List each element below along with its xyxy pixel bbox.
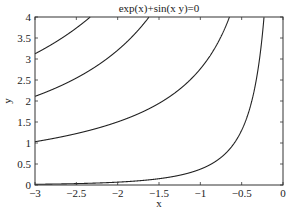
curve-branch-4 [35,17,90,54]
y-tick-label: 1 [26,137,32,149]
curve-branch-1 [35,17,264,184]
x-tick-label: −1 [194,187,206,199]
y-tick-label: 1.5 [17,116,31,128]
curve-branch-2 [35,17,229,142]
y-tick-label: 3 [26,53,32,65]
y-axis-label: y [1,98,13,104]
y-tick-label: 2.5 [17,74,31,86]
curve-branch-3 [35,17,149,96]
x-tick-label: −2 [112,187,124,199]
plot-curves [35,17,264,184]
implicit-plot: exp(x)+sin(x y)=0 −3−2.5−2−1.5−1−0.50 00… [0,0,289,216]
y-tick-label: 0.5 [17,158,31,170]
y-axis-ticks: 00.511.522.533.54 [17,11,283,191]
y-tick-label: 2 [26,95,32,107]
chart-title: exp(x)+sin(x y)=0 [119,2,200,15]
x-tick-label: −2.5 [66,187,86,199]
plot-frame [35,17,283,185]
x-tick-label: 0 [280,187,286,199]
x-tick-label: −0.5 [232,187,252,199]
x-axis-ticks: −3−2.5−2−1.5−1−0.50 [29,17,286,199]
x-axis-label: x [156,197,162,209]
y-tick-label: 3.5 [17,32,31,44]
y-tick-label: 0 [26,179,32,191]
y-tick-label: 4 [26,11,32,23]
